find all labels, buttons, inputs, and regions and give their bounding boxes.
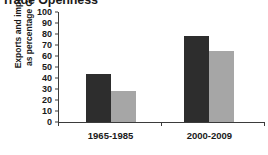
bar-dark-series-2000-2009	[184, 36, 209, 122]
plot-area	[58, 12, 264, 122]
x-tick-mark	[161, 122, 162, 126]
y-tick-label: 0	[47, 118, 52, 127]
bar-gray-series-2000-2009	[209, 51, 234, 123]
bar-gray-series-1965-1985	[111, 91, 136, 122]
y-tick-label: 60	[42, 52, 52, 61]
y-tick-label: 80	[42, 30, 52, 39]
y-tick-label: 40	[42, 74, 52, 83]
y-tick-label: 50	[42, 63, 52, 72]
y-axis: 1009080706050403020100	[0, 12, 58, 123]
x-category-label: 2000-2009	[187, 131, 232, 141]
x-tick-mark	[264, 122, 265, 126]
bar-dark-series-1965-1985	[86, 74, 111, 122]
x-tick-mark	[58, 122, 59, 126]
y-tick-label: 30	[42, 85, 52, 94]
y-tick-label: 20	[42, 96, 52, 105]
y-tick-label: 100	[37, 8, 52, 17]
x-category-label: 1965-1985	[88, 131, 133, 141]
y-tick-label: 10	[42, 107, 52, 116]
y-tick-label: 90	[42, 19, 52, 28]
y-tick-label: 70	[42, 41, 52, 50]
